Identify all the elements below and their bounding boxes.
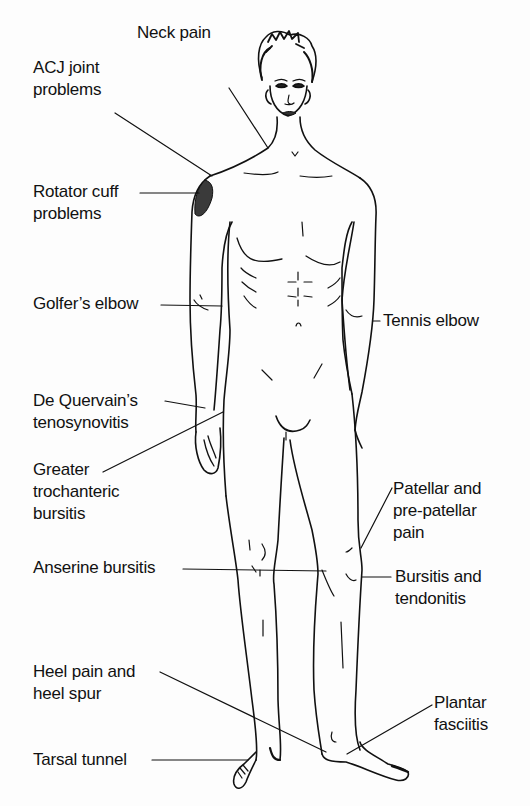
label-line: tendonitis — [395, 588, 481, 610]
label-anserine: Anserine bursitis — [33, 557, 155, 579]
label-line: Heel pain and — [33, 661, 135, 683]
leader-plantar — [347, 705, 432, 754]
label-line: Tarsal tunnel — [33, 749, 127, 771]
label-line: heel spur — [33, 683, 135, 705]
leader-acj-joint — [115, 113, 212, 176]
label-line: trochanteric — [33, 481, 119, 503]
label-line: pre-patellar — [393, 500, 481, 522]
label-line: De Quervain’s — [33, 390, 138, 412]
leader-de-quervain — [165, 401, 205, 408]
label-line: pain — [393, 522, 481, 544]
head-drawing — [259, 31, 316, 116]
label-tennis-elbow: Tennis elbow — [383, 310, 479, 332]
label-line: Golfer’s elbow — [33, 293, 138, 315]
legs-outline — [226, 394, 408, 788]
leader-heel-pain — [160, 672, 326, 752]
label-bursitis-tendonitis: Bursitis and tendonitis — [395, 566, 481, 610]
label-line: Tennis elbow — [383, 310, 479, 332]
label-golfers-elbow: Golfer’s elbow — [33, 293, 138, 315]
label-line: fasciitis — [434, 714, 488, 736]
label-heel-pain: Heel pain and heel spur — [33, 661, 135, 705]
label-greater-trochanteric: Greater trochanteric bursitis — [33, 459, 119, 525]
label-plantar: Plantar fasciitis — [434, 692, 488, 736]
label-line: Greater — [33, 459, 119, 481]
label-line: Neck pain — [137, 22, 211, 44]
label-line: problems — [33, 203, 118, 225]
label-line: Plantar — [434, 692, 488, 714]
label-de-quervain: De Quervain’s tenosynovitis — [33, 390, 138, 434]
label-line: Patellar and — [393, 478, 481, 500]
leader-golfers-elbow — [161, 305, 222, 306]
label-line: tenosynovitis — [33, 412, 138, 434]
label-tarsal: Tarsal tunnel — [33, 749, 127, 771]
label-acj-joint: ACJ joint problems — [33, 57, 101, 101]
leader-patellar — [361, 488, 392, 548]
leader-lines — [103, 88, 432, 760]
diagram-canvas: Neck pain ACJ joint problems Rotator cuf… — [0, 0, 530, 806]
label-line: Rotator cuff — [33, 181, 118, 203]
label-patellar: Patellar and pre-patellar pain — [393, 478, 481, 544]
label-line: Bursitis and — [395, 566, 481, 588]
label-rotator-cuff: Rotator cuff problems — [33, 181, 118, 225]
label-line: bursitis — [33, 503, 119, 525]
label-line: ACJ joint — [33, 57, 101, 79]
leader-neck-pain — [229, 88, 268, 148]
label-line: Anserine bursitis — [33, 557, 155, 579]
label-line: problems — [33, 79, 101, 101]
label-neck-pain: Neck pain — [137, 22, 211, 44]
